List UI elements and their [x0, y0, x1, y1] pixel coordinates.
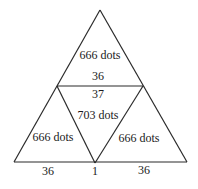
top-region-label: 666 dots	[79, 49, 120, 61]
top-base-label: 36	[92, 70, 104, 82]
center-top-label: 37	[92, 88, 104, 100]
bottom-left-base-label: 36	[42, 165, 54, 177]
bottom-gap-label: 1	[92, 165, 98, 177]
inner-left-diagonal	[57, 86, 95, 163]
bottom-right-base-label: 36	[138, 164, 150, 176]
bottom-left-region-label: 666 dots	[32, 131, 73, 143]
center-region-label: 703 dots	[77, 109, 118, 121]
triangle-diagram: 666 dots 36 37 703 dots 666 dots 666 dot…	[0, 0, 198, 189]
bottom-right-region-label: 666 dots	[118, 132, 159, 144]
